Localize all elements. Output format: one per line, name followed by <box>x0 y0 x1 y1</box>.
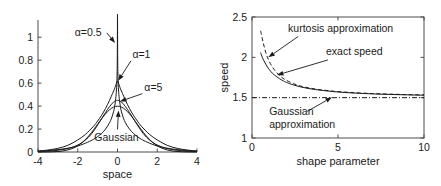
alpha-five-leader-line <box>126 94 142 100</box>
kurtosis-approximation-label: kurtosis approximation <box>288 22 393 34</box>
right-y-tick-label: 1.5 <box>232 91 247 103</box>
left-x-tick-label: 2 <box>154 155 160 167</box>
left-x-axis-title: space <box>103 168 132 180</box>
left-chart-svg: -4-2024 00.20.40.60.81 space α=0.5 α=1 α… <box>0 0 215 186</box>
alpha-half-label: α=0.5 <box>75 26 102 38</box>
left-y-tick-label: 0.4 <box>18 100 33 112</box>
right-y-tick-labels: 11.522.5 <box>232 11 247 144</box>
left-x-tick-labels: -4-2024 <box>33 155 200 167</box>
right-x-tick-label: 10 <box>418 141 430 153</box>
left-y-tick-label: 0.6 <box>18 77 33 89</box>
figure-container: -4-2024 00.20.40.60.81 space α=0.5 α=1 α… <box>0 0 441 186</box>
kurtosis-leader-line <box>274 37 298 54</box>
left-y-tick-label: 0.2 <box>18 123 33 135</box>
kurtosis-leader-arrowhead <box>268 52 275 58</box>
right-chart-panel: 0510 11.522.5 shape parameter speed kurt… <box>215 0 441 186</box>
alpha-half-leader-line <box>107 33 111 38</box>
gaussian-leader-arrowhead <box>116 110 121 117</box>
left-x-tick-label: -2 <box>73 155 82 167</box>
right-x-tick-label: 0 <box>249 141 255 153</box>
right-curve-exact-speed <box>261 52 424 95</box>
left-x-tick-label: 4 <box>194 155 200 167</box>
left-x-tick-label: -4 <box>33 155 42 167</box>
alpha-five-label: α=5 <box>144 81 162 93</box>
gaussian-approximation-label-line2: approximation <box>269 118 335 130</box>
gaussian-leader-line <box>118 117 119 130</box>
left-y-tick-label: 0 <box>27 146 33 158</box>
left-y-tick-labels: 00.20.40.60.81 <box>18 31 33 158</box>
left-y-tick-label: 1 <box>27 31 33 43</box>
right-x-axis-title: shape parameter <box>296 155 379 167</box>
left-y-tick-label: 0.8 <box>18 54 33 66</box>
right-y-tick-label: 2.5 <box>232 11 247 23</box>
exact-speed-label: exact speed <box>326 45 383 57</box>
right-x-tick-labels: 0510 <box>249 141 430 153</box>
gaussian-approximation-label-line1: Gaussian <box>269 105 314 117</box>
alpha-one-leader-line <box>122 61 131 75</box>
alpha-five-leader-arrowhead <box>120 97 127 102</box>
left-chart-panel: -4-2024 00.20.40.60.81 space α=0.5 α=1 α… <box>0 0 215 186</box>
gaussian-curve-label: Gaussian <box>94 131 139 143</box>
right-y-tick-label: 1 <box>241 132 247 144</box>
exact-speed-leader-line <box>283 60 328 73</box>
right-y-axis-title: speed <box>218 63 230 93</box>
right-y-tick-label: 2 <box>241 51 247 63</box>
exact-speed-leader-arrowhead <box>277 71 284 76</box>
right-chart-svg: 0510 11.522.5 shape parameter speed kurt… <box>215 0 441 186</box>
alpha-one-label: α=1 <box>132 48 150 60</box>
alpha-one-leader-arrowhead <box>118 74 124 81</box>
left-x-tick-label: 0 <box>115 155 121 167</box>
right-curve-kurtosis-approximation <box>261 31 424 95</box>
right-curves <box>252 31 424 98</box>
right-x-tick-label: 5 <box>335 141 341 153</box>
